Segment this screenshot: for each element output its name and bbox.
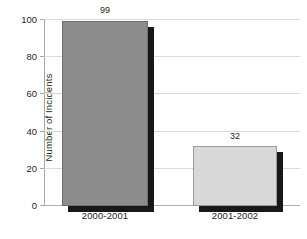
bar-2001-2002[interactable] bbox=[193, 146, 277, 206]
y-tick-label-80: 80 bbox=[3, 52, 37, 62]
x-tick-label-2000-2001: 2000-2001 bbox=[50, 211, 160, 221]
bar-value-label-2000-2001: 99 bbox=[75, 6, 135, 15]
y-tick-label-20: 20 bbox=[3, 164, 37, 174]
bar-body-2000-2001 bbox=[62, 21, 148, 206]
clipped-caption-text bbox=[12, 231, 302, 239]
plot-area bbox=[44, 19, 300, 206]
x-tick-label-2001-2002: 2001-2002 bbox=[180, 211, 290, 221]
y-tick-label-40: 40 bbox=[3, 127, 37, 137]
bar-body-2001-2002 bbox=[193, 146, 277, 206]
y-tick-label-60: 60 bbox=[3, 89, 37, 99]
y-tick-label-0: 0 bbox=[3, 201, 37, 211]
bar-2000-2001[interactable] bbox=[62, 21, 148, 206]
y-tick-label-100: 100 bbox=[3, 15, 37, 25]
bar-value-label-2001-2002: 32 bbox=[205, 132, 265, 141]
bar-chart-figure: Number of Incidents 100 80 60 40 20 0 99… bbox=[0, 0, 307, 239]
gridline-100 bbox=[44, 19, 300, 20]
